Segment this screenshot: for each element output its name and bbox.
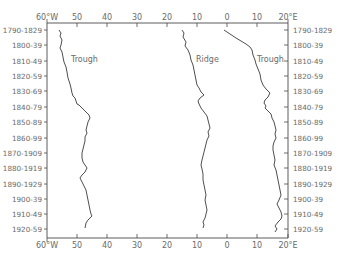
bottom-tick-label: 20°E xyxy=(278,241,297,250)
left-row-label: 1820-59 xyxy=(12,72,42,81)
trough-west-label: Trough xyxy=(70,55,98,64)
bottom-tick-label: 50 xyxy=(72,241,82,250)
top-tick-labels: 60°W 50 40 30 20 10 0 10 20°E xyxy=(36,13,298,22)
right-row-label: 1870-1909 xyxy=(293,149,333,158)
right-row-label: 1890-1929 xyxy=(293,180,333,189)
left-row-label: 1880-1919 xyxy=(3,164,43,173)
left-row-label: 1850-89 xyxy=(12,118,42,127)
left-row-label: 1860-99 xyxy=(12,134,42,143)
right-row-label: 1840-79 xyxy=(293,103,323,112)
top-tick-label: 60°W xyxy=(36,13,58,22)
right-row-label: 1790-1829 xyxy=(293,26,333,35)
right-row-label: 1850-89 xyxy=(293,118,323,127)
top-tick-label: 20°E xyxy=(278,13,297,22)
right-row-label: 1820-59 xyxy=(293,72,323,81)
top-tick-label: 20 xyxy=(162,13,172,22)
bottom-tick-label: 20 xyxy=(162,241,172,250)
top-tick-label: 0 xyxy=(224,13,229,22)
longitude-profile-chart: 60°W 50 40 30 20 10 0 10 20°E 60°W 50 40… xyxy=(0,0,343,271)
left-row-label: 1790-1829 xyxy=(3,26,43,35)
left-row-labels: 1790-1829 1800-39 1810-49 1820-59 1830-6… xyxy=(3,26,43,234)
top-tick-label: 40 xyxy=(102,13,112,22)
trough-east-label: Trough xyxy=(256,55,284,64)
top-tick-label: 10 xyxy=(192,13,202,22)
ridge-label: Ridge xyxy=(196,55,219,64)
left-row-label: 1900-39 xyxy=(12,195,42,204)
left-row-label: 1920-59 xyxy=(12,225,42,234)
right-row-label: 1800-39 xyxy=(293,41,323,50)
left-row-label: 1910-49 xyxy=(12,210,42,219)
bottom-tick-label: 60°W xyxy=(36,241,58,250)
bottom-tick-label: 30 xyxy=(132,241,142,250)
right-row-label: 1860-99 xyxy=(293,134,323,143)
top-tick-label: 30 xyxy=(132,13,142,22)
left-row-label: 1810-49 xyxy=(12,57,42,66)
right-row-label: 1810-49 xyxy=(293,57,323,66)
bottom-tick-labels: 60°W 50 40 30 20 10 0 10 20°E xyxy=(36,241,298,250)
left-row-label: 1870-1909 xyxy=(3,149,43,158)
left-row-label: 1890-1929 xyxy=(3,180,43,189)
right-row-label: 1830-69 xyxy=(293,87,323,96)
bottom-tick-label: 10 xyxy=(192,241,202,250)
top-tick-label: 50 xyxy=(72,13,82,22)
top-tick-label: 10 xyxy=(252,13,262,22)
bottom-tick-label: 10 xyxy=(252,241,262,250)
bottom-tick-label: 0 xyxy=(224,241,229,250)
right-row-label: 1880-1919 xyxy=(293,164,333,173)
right-row-label: 1920-59 xyxy=(293,225,323,234)
right-row-label: 1900-39 xyxy=(293,195,323,204)
left-row-label: 1840-79 xyxy=(12,103,42,112)
right-row-label: 1910-49 xyxy=(293,210,323,219)
bottom-tick-label: 40 xyxy=(102,241,112,250)
left-row-label: 1800-39 xyxy=(12,41,42,50)
left-row-label: 1830-69 xyxy=(12,87,42,96)
right-row-labels: 1790-1829 1800-39 1810-49 1820-59 1830-6… xyxy=(293,26,333,234)
x-ticks xyxy=(47,19,288,242)
